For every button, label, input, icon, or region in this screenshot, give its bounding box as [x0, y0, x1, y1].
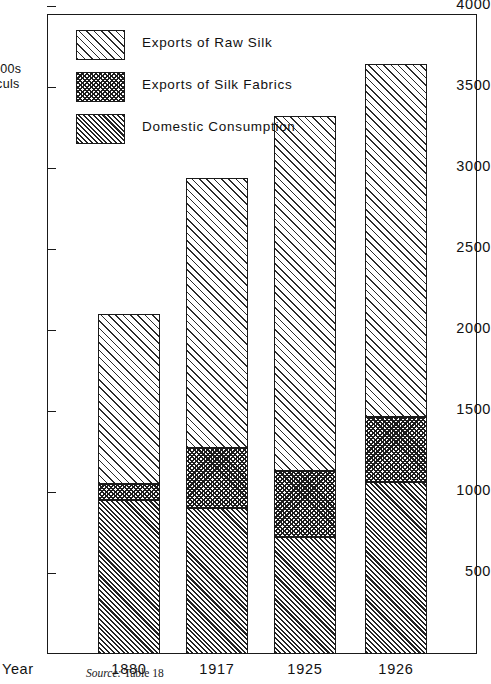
bar-segment-domestic-consumption — [98, 500, 160, 654]
y-axis-tick — [47, 411, 56, 412]
source-label: Source: — [86, 667, 121, 679]
bar-segment-exports-silk-fabrics — [186, 448, 248, 508]
y-axis-tick-label: 3500 — [447, 77, 491, 93]
y-axis-tick-label: 3000 — [447, 158, 491, 174]
bar-segment-exports-raw-silk — [186, 178, 248, 449]
y-axis-tick-label: 500 — [447, 563, 491, 579]
legend-swatch-domestic — [76, 114, 125, 144]
legend-swatch-silk-fabrics — [76, 72, 125, 102]
source-note: Source: Table 18 — [86, 667, 164, 679]
y-axis-label-line-1: 000s — [0, 62, 53, 77]
bar-segment-exports-raw-silk — [98, 314, 160, 484]
y-axis-tick — [47, 6, 56, 7]
legend-label-silk-fabrics: Exports of Silk Fabrics — [142, 77, 292, 92]
y-axis-tick-label: 2500 — [447, 239, 491, 255]
legend-item: Exports of Silk Fabrics — [76, 72, 376, 103]
y-axis-tick — [47, 330, 56, 331]
x-axis-tick-label: 1925 — [265, 661, 345, 677]
legend-item: Exports of Raw Silk — [76, 30, 376, 61]
bar-1925 — [274, 116, 336, 654]
bar-segment-exports-raw-silk — [274, 116, 336, 471]
y-axis-tick-label: 1500 — [447, 401, 491, 417]
bar-1880 — [98, 314, 160, 654]
bar-segment-exports-silk-fabrics — [274, 471, 336, 537]
bar-segment-domestic-consumption — [186, 508, 248, 654]
y-axis-label: 000s iculs — [0, 62, 53, 92]
legend-label-domestic: Domestic Consumption — [142, 119, 296, 134]
bar-segment-domestic-consumption — [274, 537, 336, 654]
y-axis-tick — [47, 168, 56, 169]
y-axis-tick-label: 4000 — [447, 0, 491, 12]
x-axis-title: Year — [2, 661, 46, 677]
legend: Exports of Raw Silk Exports of Silk Fabr… — [76, 30, 376, 156]
x-axis-tick-label: 1917 — [177, 661, 257, 677]
legend-label-raw-silk: Exports of Raw Silk — [142, 35, 272, 50]
y-axis-label-line-2: iculs — [0, 77, 53, 92]
y-axis-tick — [47, 573, 56, 574]
bar-segment-exports-silk-fabrics — [365, 417, 427, 482]
source-text: Table 18 — [124, 667, 164, 679]
y-axis-tick — [47, 87, 56, 88]
bar-1917 — [186, 178, 248, 654]
legend-item: Domestic Consumption — [76, 114, 376, 145]
bar-segment-exports-silk-fabrics — [98, 484, 160, 500]
y-axis-tick-label: 2000 — [447, 320, 491, 336]
y-axis-tick — [47, 249, 56, 250]
x-axis-tick-label: 1926 — [356, 661, 436, 677]
y-axis-tick — [47, 492, 56, 493]
chart-figure: 000s iculs 50010001500200025003000350040… — [0, 0, 491, 684]
y-axis-tick-label: 1000 — [447, 482, 491, 498]
bar-segment-domestic-consumption — [365, 482, 427, 654]
legend-swatch-raw-silk — [76, 30, 125, 60]
